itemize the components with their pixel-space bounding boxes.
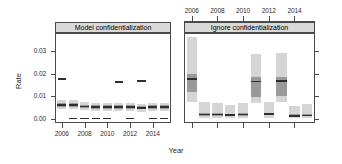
y-tick-label: 0.00 xyxy=(34,115,46,122)
observed-value-marker xyxy=(103,118,111,120)
panel-plot-area-2 xyxy=(185,34,314,122)
median-line xyxy=(289,115,299,117)
observed-value-marker xyxy=(115,81,123,83)
panel-strip-1: Model confidentialization xyxy=(55,22,171,33)
median-line xyxy=(212,114,222,116)
median-line xyxy=(137,107,146,109)
median-line xyxy=(160,106,169,108)
top-x-tick-label: 2012 xyxy=(262,7,276,14)
y-tick-label: 0.02 xyxy=(34,70,46,77)
y-tick-label: 0.01 xyxy=(34,92,46,99)
panel-strip-label: Model confidentialization xyxy=(75,24,152,31)
bottom-axis-tick xyxy=(130,123,131,128)
top-x-tick-label: 2006 xyxy=(185,7,199,14)
median-line xyxy=(199,114,209,116)
observed-value-marker xyxy=(160,118,168,120)
bottom-axis-tick-p2 xyxy=(294,123,295,128)
observed-value-marker xyxy=(92,118,100,120)
bottom-x-tick-label: 2006 xyxy=(55,130,69,137)
observed-value-marker xyxy=(80,118,88,120)
top-x-tick-label: 2014 xyxy=(287,7,301,14)
observed-value-marker xyxy=(137,80,145,82)
x-axis-title: Year xyxy=(168,146,183,155)
bottom-axis-tick xyxy=(107,123,108,128)
panel-strip-label: Ignore confidentialization xyxy=(211,24,288,31)
bottom-axis-tick-p2 xyxy=(269,123,270,128)
y-tick-mark-right xyxy=(315,74,319,75)
bottom-x-tick-label: 2008 xyxy=(78,130,92,137)
median-line xyxy=(302,115,312,117)
median-line xyxy=(103,106,112,108)
observed-value-marker xyxy=(69,118,77,120)
y-axis-title: Rate xyxy=(14,73,23,89)
median-line xyxy=(251,81,261,83)
median-line xyxy=(225,114,235,116)
median-line xyxy=(264,113,274,115)
median-line xyxy=(276,80,286,82)
median-line xyxy=(114,106,123,108)
inner-interval-band xyxy=(187,74,197,92)
panel-strip-2: Ignore confidentialization xyxy=(184,22,315,33)
y-tick-mark-right xyxy=(315,96,319,97)
median-line xyxy=(126,106,135,108)
y-tick-label: 0.03 xyxy=(34,47,46,54)
median-line xyxy=(91,106,100,108)
observed-value-marker xyxy=(126,118,134,120)
observed-value-marker xyxy=(149,118,157,120)
median-line xyxy=(57,104,66,106)
bottom-x-tick-label: 2014 xyxy=(146,130,160,137)
observed-value-marker xyxy=(58,78,66,80)
top-axis-line xyxy=(184,21,315,22)
median-line xyxy=(187,78,197,80)
bottom-x-tick-label: 2012 xyxy=(123,130,137,137)
top-x-tick-label: 2010 xyxy=(236,7,250,14)
median-line xyxy=(238,114,248,116)
bottom-axis-tick xyxy=(153,123,154,128)
bottom-axis-tick-p2 xyxy=(217,123,218,128)
outer-interval-band xyxy=(187,37,197,102)
panel-plot-area-1 xyxy=(56,34,170,122)
bottom-axis-tick-p2 xyxy=(243,123,244,128)
bottom-axis-tick xyxy=(62,123,63,128)
median-line xyxy=(148,106,157,108)
median-line xyxy=(80,106,89,108)
bottom-axis-tick xyxy=(85,123,86,128)
y-tick-mark-right xyxy=(315,51,319,52)
bottom-axis-tick-p2 xyxy=(192,123,193,128)
y-tick-mark-right xyxy=(315,119,319,120)
median-line xyxy=(69,104,78,106)
bottom-x-tick-label: 2010 xyxy=(100,130,114,137)
figure-canvas: RateYear0.000.010.020.03Model confidenti… xyxy=(0,0,342,164)
top-x-tick-label: 2008 xyxy=(210,7,224,14)
